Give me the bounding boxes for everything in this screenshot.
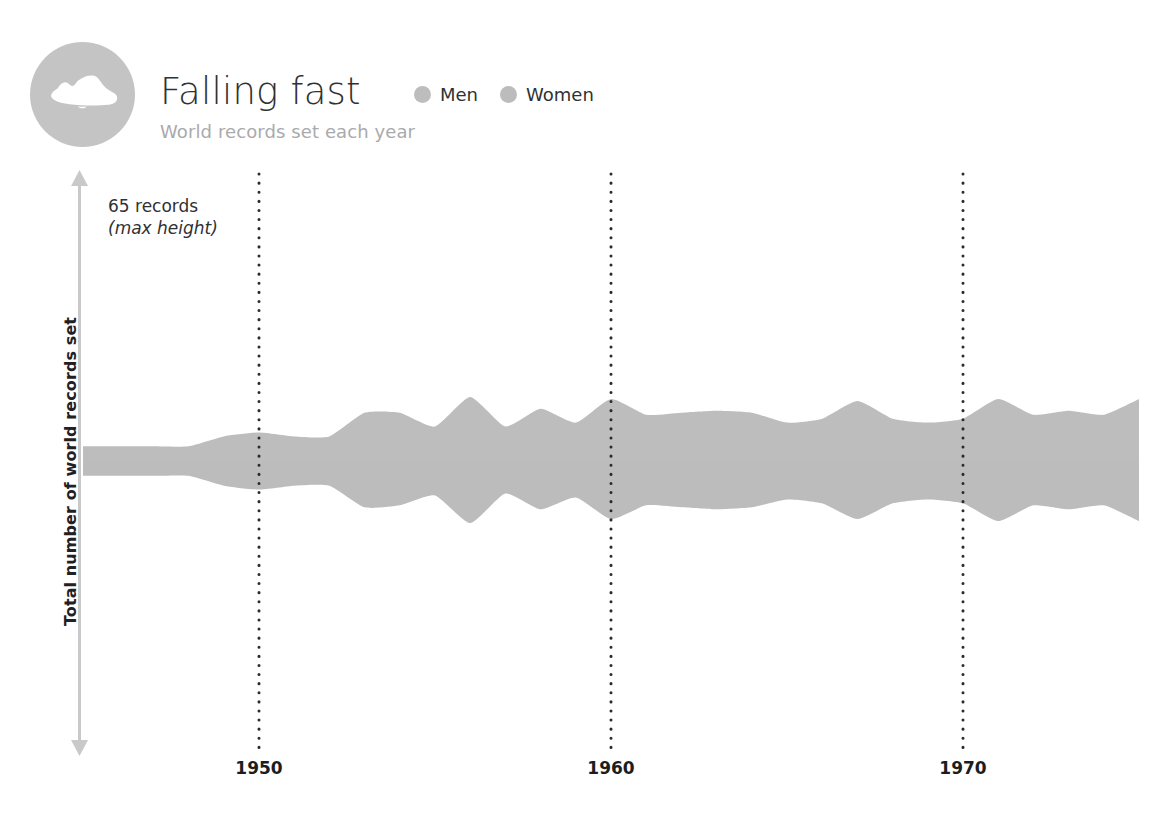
page-title: Falling fast: [160, 70, 361, 114]
legend-item-men[interactable]: Men: [414, 84, 478, 105]
legend-item-women[interactable]: Women: [500, 84, 594, 105]
legend-label-women: Women: [526, 84, 594, 105]
cropped-top-text: [0, 0, 1168, 3]
legend-label-men: Men: [440, 84, 478, 105]
x-axis-label-1950: 1950: [235, 758, 282, 778]
legend-swatch-women: [500, 86, 517, 103]
shoe-badge: [30, 42, 135, 147]
running-shoe-icon: [47, 70, 119, 118]
page-subtitle: World records set each year: [160, 120, 415, 144]
x-axis-label-1960: 1960: [587, 758, 634, 778]
x-axis-label-1970: 1970: [939, 758, 986, 778]
chart-legend: Men Women: [414, 80, 594, 108]
legend-swatch-men: [414, 86, 431, 103]
streamgraph-plot: [0, 168, 1168, 758]
stream-bands: [83, 397, 1139, 523]
chart-canvas: Falling fast World records set each year…: [0, 0, 1168, 820]
streamgraph-svg: [0, 168, 1168, 760]
